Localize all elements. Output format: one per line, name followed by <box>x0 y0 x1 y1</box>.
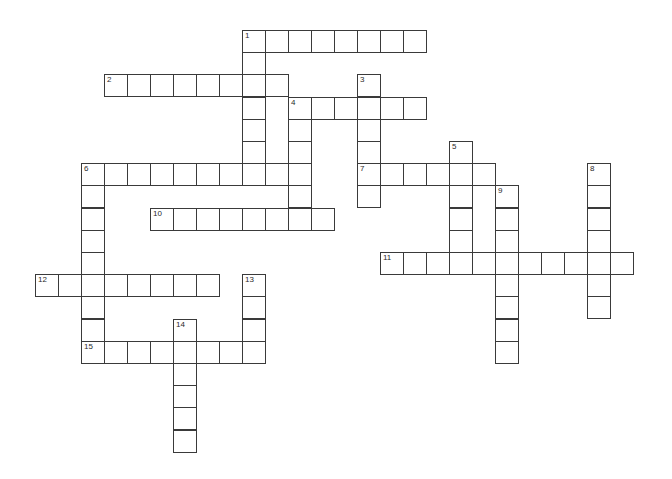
crossword-cell[interactable]: 2 <box>104 74 128 97</box>
crossword-cell[interactable] <box>242 341 266 364</box>
crossword-cell[interactable] <box>173 74 197 97</box>
crossword-cell[interactable] <box>127 163 151 186</box>
crossword-cell[interactable] <box>196 163 220 186</box>
crossword-cell[interactable] <box>288 185 312 208</box>
crossword-cell[interactable] <box>219 341 243 364</box>
crossword-cell[interactable]: 5 <box>449 141 473 164</box>
crossword-cell[interactable] <box>311 208 335 231</box>
crossword-cell[interactable] <box>403 252 427 275</box>
crossword-cell[interactable] <box>81 252 105 275</box>
crossword-cell[interactable] <box>150 341 174 364</box>
crossword-cell[interactable]: 10 <box>150 208 174 231</box>
crossword-cell[interactable] <box>219 208 243 231</box>
crossword-cell[interactable] <box>219 163 243 186</box>
crossword-cell[interactable] <box>495 274 519 297</box>
crossword-cell[interactable] <box>449 163 473 186</box>
crossword-cell[interactable] <box>495 341 519 364</box>
crossword-cell[interactable] <box>265 208 289 231</box>
crossword-cell[interactable] <box>127 274 151 297</box>
crossword-cell[interactable] <box>472 163 496 186</box>
crossword-cell[interactable] <box>357 97 381 120</box>
crossword-cell[interactable]: 14 <box>173 319 197 342</box>
crossword-cell[interactable] <box>288 119 312 142</box>
crossword-cell[interactable] <box>334 97 358 120</box>
crossword-cell[interactable] <box>357 185 381 208</box>
crossword-cell[interactable] <box>587 274 611 297</box>
crossword-cell[interactable] <box>518 252 542 275</box>
crossword-cell[interactable] <box>81 274 105 297</box>
crossword-cell[interactable] <box>173 385 197 408</box>
crossword-cell[interactable] <box>150 274 174 297</box>
crossword-cell[interactable] <box>242 319 266 342</box>
crossword-cell[interactable] <box>127 341 151 364</box>
crossword-cell[interactable]: 6 <box>81 163 105 186</box>
crossword-cell[interactable] <box>219 74 243 97</box>
crossword-cell[interactable]: 3 <box>357 74 381 97</box>
crossword-cell[interactable] <box>403 97 427 120</box>
crossword-cell[interactable] <box>288 208 312 231</box>
crossword-cell[interactable] <box>495 252 519 275</box>
crossword-cell[interactable] <box>449 185 473 208</box>
crossword-cell[interactable] <box>242 52 266 75</box>
crossword-cell[interactable] <box>357 119 381 142</box>
crossword-cell[interactable] <box>495 296 519 319</box>
crossword-cell[interactable] <box>173 430 197 453</box>
crossword-cell[interactable]: 7 <box>357 163 381 186</box>
crossword-cell[interactable] <box>288 141 312 164</box>
crossword-cell[interactable] <box>104 274 128 297</box>
crossword-cell[interactable] <box>426 163 450 186</box>
crossword-cell[interactable] <box>587 208 611 231</box>
crossword-cell[interactable] <box>196 274 220 297</box>
crossword-cell[interactable] <box>449 230 473 253</box>
crossword-cell[interactable] <box>311 30 335 53</box>
crossword-cell[interactable]: 15 <box>81 341 105 364</box>
crossword-cell[interactable] <box>242 208 266 231</box>
crossword-cell[interactable]: 8 <box>587 163 611 186</box>
crossword-cell[interactable] <box>81 319 105 342</box>
crossword-cell[interactable] <box>334 30 358 53</box>
crossword-cell[interactable] <box>173 274 197 297</box>
crossword-cell[interactable] <box>173 208 197 231</box>
crossword-cell[interactable] <box>449 208 473 231</box>
crossword-cell[interactable] <box>403 163 427 186</box>
crossword-cell[interactable] <box>242 296 266 319</box>
crossword-cell[interactable] <box>196 74 220 97</box>
crossword-cell[interactable] <box>242 97 266 120</box>
crossword-cell[interactable] <box>173 407 197 430</box>
crossword-cell[interactable] <box>242 141 266 164</box>
crossword-cell[interactable] <box>58 274 82 297</box>
crossword-cell[interactable] <box>81 296 105 319</box>
crossword-cell[interactable] <box>357 30 381 53</box>
crossword-cell[interactable]: 1 <box>242 30 266 53</box>
crossword-cell[interactable] <box>587 185 611 208</box>
crossword-cell[interactable] <box>449 252 473 275</box>
crossword-cell[interactable] <box>104 341 128 364</box>
crossword-cell[interactable]: 12 <box>35 274 59 297</box>
crossword-cell[interactable] <box>288 30 312 53</box>
crossword-cell[interactable] <box>587 230 611 253</box>
crossword-cell[interactable] <box>196 341 220 364</box>
crossword-cell[interactable] <box>495 319 519 342</box>
crossword-cell[interactable] <box>242 119 266 142</box>
crossword-cell[interactable] <box>587 296 611 319</box>
crossword-cell[interactable] <box>403 30 427 53</box>
crossword-cell[interactable] <box>242 163 266 186</box>
crossword-cell[interactable] <box>495 208 519 231</box>
crossword-cell[interactable] <box>357 141 381 164</box>
crossword-cell[interactable] <box>380 97 404 120</box>
crossword-cell[interactable] <box>104 163 128 186</box>
crossword-cell[interactable] <box>81 185 105 208</box>
crossword-cell[interactable] <box>495 230 519 253</box>
crossword-cell[interactable] <box>311 97 335 120</box>
crossword-cell[interactable] <box>265 74 289 97</box>
crossword-cell[interactable] <box>564 252 588 275</box>
crossword-cell[interactable] <box>587 252 611 275</box>
crossword-cell[interactable] <box>150 163 174 186</box>
crossword-cell[interactable] <box>380 30 404 53</box>
crossword-cell[interactable] <box>173 363 197 386</box>
crossword-cell[interactable] <box>196 208 220 231</box>
crossword-cell[interactable] <box>265 163 289 186</box>
crossword-cell[interactable] <box>81 208 105 231</box>
crossword-cell[interactable] <box>242 74 266 97</box>
crossword-cell[interactable] <box>265 30 289 53</box>
